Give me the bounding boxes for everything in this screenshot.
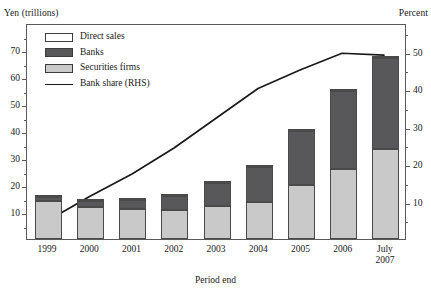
bar-segment-banks [372,58,399,148]
bar-segment-securities-firms [161,210,188,239]
y-axis-left-tick [22,187,27,188]
bar-group [288,25,315,239]
plot-frame: Direct salesBanksSecurities firmsBank sh… [26,24,406,240]
bar-segment-direct-sales [161,194,188,196]
y-axis-right-minor-tick [405,35,408,36]
bar-group [161,25,188,239]
y-axis-right-tick-label: 10 [413,199,423,209]
chart-container: Yen (trillions) Percent Direct salesBank… [0,0,431,288]
y-axis-right-minor-tick [405,222,408,223]
y-axis-left-tick-label: 60 [11,74,21,84]
y-axis-right-tick [405,166,410,167]
x-axis-category-label: July 2007 [364,244,406,266]
bar-segment-direct-sales [204,181,231,183]
y-axis-left-minor-tick [24,66,27,67]
y-axis-left-tick [22,52,27,53]
y-axis-left-minor-tick [24,228,27,229]
x-axis-category-label: 2003 [195,244,237,255]
y-axis-left-tick-label: 30 [11,155,21,165]
bar-segment-securities-firms [288,185,315,239]
bar-segment-direct-sales [246,165,273,167]
bar-segment-banks [330,91,357,169]
y-axis-left-tick-label: 20 [11,182,21,192]
plot-area [27,25,405,239]
x-axis-category-label: 1999 [26,244,68,255]
y-axis-left-tick-label: 10 [11,209,21,219]
bar-segment-banks [288,131,315,185]
y-axis-left-minor-tick [24,39,27,40]
y-axis-left-minor-tick [24,93,27,94]
x-axis-category-label: 2001 [110,244,152,255]
y-axis-left-label: Yen (trillions) [4,8,59,18]
y-axis-left-minor-tick [24,147,27,148]
bar-segment-securities-firms [330,169,357,239]
bar-segment-direct-sales [35,195,62,197]
y-axis-left-tick-label: 40 [11,128,21,138]
bar-group [330,25,357,239]
x-axis-label: Period end [0,275,431,285]
bar-segment-securities-firms [372,149,399,239]
bar-segment-securities-firms [35,201,62,239]
bar-segment-securities-firms [119,209,146,239]
bar-segment-banks [204,183,231,206]
y-axis-right-tick [405,91,410,92]
bar-segment-direct-sales [372,56,399,58]
bar-segment-direct-sales [77,199,104,201]
bar-segment-direct-sales [330,89,357,91]
y-axis-left-tick [22,106,27,107]
bar-group [35,25,62,239]
y-axis-right-minor-tick [405,72,408,73]
x-axis-category-label: 2000 [68,244,110,255]
y-axis-left-tick [22,79,27,80]
bar-segment-banks [77,201,104,207]
y-axis-left-tick-label: 70 [11,47,21,57]
y-axis-right-minor-tick [405,185,408,186]
x-axis-category-label: 2006 [322,244,364,255]
y-axis-left-minor-tick [24,201,27,202]
bar-segment-direct-sales [288,129,315,131]
y-axis-right-tick [405,129,410,130]
bar-segment-banks [119,200,146,210]
bar-segment-securities-firms [77,207,104,239]
y-axis-left-tick [22,133,27,134]
x-axis-category-label: 2004 [237,244,279,255]
y-axis-left-tick [22,160,27,161]
bar-group [204,25,231,239]
y-axis-right-tick-label: 30 [413,124,423,134]
y-axis-right-minor-tick [405,147,408,148]
bar-segment-banks [161,196,188,210]
y-axis-right-tick-label: 40 [413,86,423,96]
bar-segment-banks [246,167,273,202]
x-axis-category-label: 2002 [153,244,195,255]
y-axis-right-tick [405,54,410,55]
bar-group [77,25,104,239]
y-axis-right-tick-label: 20 [413,161,423,171]
x-axis-category-label: 2005 [279,244,321,255]
bar-segment-direct-sales [119,198,146,200]
bar-group [246,25,273,239]
y-axis-left-tick-label: 50 [11,101,21,111]
y-axis-right-tick [405,204,410,205]
y-axis-right-tick-label: 50 [413,49,423,59]
bar-segment-banks [35,197,62,201]
bar-group [119,25,146,239]
y-axis-left-minor-tick [24,120,27,121]
bar-segment-securities-firms [204,206,231,239]
y-axis-right-label: Percent [399,8,428,18]
bar-group [372,25,399,239]
y-axis-left-minor-tick [24,174,27,175]
y-axis-left-tick [22,214,27,215]
y-axis-right-minor-tick [405,110,408,111]
bar-segment-securities-firms [246,202,273,239]
